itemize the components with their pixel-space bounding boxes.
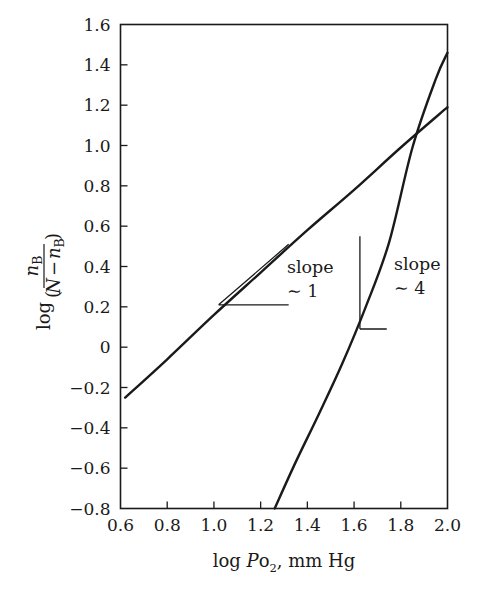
annotation-slope-4: slope ∼ 4 <box>394 254 441 298</box>
y-tick-label: 1.0 <box>83 136 110 156</box>
y-tick-label: −0.4 <box>69 418 110 438</box>
annotation-slope-1-line2: ∼ 1 <box>287 281 318 301</box>
x-axis-title-subscript: 2 <box>269 561 276 575</box>
x-axis-title-roman-o: o <box>259 550 270 571</box>
svg-text:log Po2, mm Hg: log Po2, mm Hg <box>213 550 356 575</box>
x-axis-tick-labels: 0.60.81.01.21.41.61.82.0 <box>107 515 461 535</box>
y-tick-label: −0.6 <box>69 458 110 478</box>
x-tick-label: 2.0 <box>434 515 461 535</box>
x-axis-title-prefix: log <box>213 550 247 571</box>
annotation-slope-4-line2: ∼ 4 <box>394 278 425 298</box>
y-axis-ticks <box>121 65 128 468</box>
x-tick-label: 1.6 <box>341 515 368 535</box>
y-tick-label: 1.4 <box>83 55 110 75</box>
y-axis-tick-labels: −0.8−0.6−0.4−0.200.20.40.60.81.01.21.41.… <box>69 15 110 519</box>
figure-container: 0.60.81.01.21.41.61.82.0 −0.8−0.6−0.4−0.… <box>0 0 482 594</box>
annotation-slope-1-line1: slope <box>287 257 334 277</box>
curve-slope-1-curve <box>125 107 447 397</box>
x-tick-label: 1.2 <box>247 515 274 535</box>
chart-plot: 0.60.81.01.21.41.61.82.0 −0.8−0.6−0.4−0.… <box>0 0 482 594</box>
y-axis-title-log: log <box>33 302 54 330</box>
x-tick-label: 1.8 <box>387 515 414 535</box>
y-tick-label: 0.4 <box>83 257 110 277</box>
y-axis-title-numerator: nB <box>21 256 45 277</box>
y-tick-label: −0.2 <box>69 378 110 398</box>
x-tick-label: 1.0 <box>200 515 227 535</box>
y-tick-label: 1.6 <box>83 15 110 35</box>
x-axis-title-italic-p: P <box>246 550 260 571</box>
y-tick-label: 0.6 <box>83 216 110 236</box>
x-axis-ticks <box>167 502 401 509</box>
y-tick-label: 1.2 <box>83 95 110 115</box>
y-tick-label: 0.8 <box>83 176 110 196</box>
slope-1-wedge <box>219 244 289 305</box>
x-axis-title: log Po2, mm Hg <box>213 550 356 575</box>
y-axis-title-right-paren: ) <box>42 233 63 240</box>
annotation-slope-4-line1: slope <box>394 254 441 274</box>
y-axis-title: log ( nB N−nB ) <box>21 233 67 330</box>
x-axis-title-suffix: , mm Hg <box>277 550 356 571</box>
y-tick-label: 0 <box>100 337 111 357</box>
y-axis-title-denominator: N−nB <box>43 238 67 295</box>
y-tick-label: 0.2 <box>83 297 110 317</box>
y-tick-label: −0.8 <box>69 499 110 519</box>
annotation-slope-1: slope ∼ 1 <box>287 257 334 301</box>
slope-4-wedge <box>360 236 387 329</box>
x-tick-label: 1.4 <box>294 515 321 535</box>
x-tick-label: 0.8 <box>154 515 181 535</box>
x-tick-label: 0.6 <box>107 515 134 535</box>
